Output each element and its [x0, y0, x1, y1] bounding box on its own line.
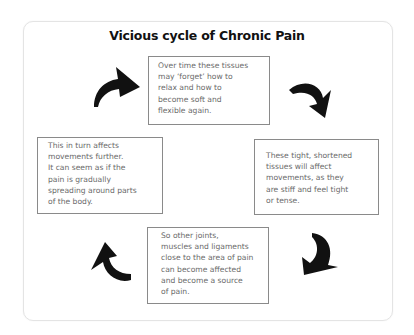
step-text-line: flexible again.: [158, 105, 263, 116]
step-text-line: of pain.: [161, 286, 262, 297]
step-text-line: It can seem as if the: [48, 162, 156, 173]
curved-arrow-up-right-icon: [92, 63, 142, 109]
step-text-line: tissues will affect: [266, 161, 372, 172]
step-text-line: muscles and ligaments: [161, 241, 262, 252]
step-text-line: movements further.: [48, 151, 156, 162]
step-text-line: So other joints,: [161, 230, 262, 241]
cycle-step-top: Over time these tissues may ‘forget’ how…: [148, 56, 270, 125]
step-text-line: close to the area of pain: [161, 252, 262, 263]
cycle-step-left: This in turn affects movements further. …: [37, 137, 163, 214]
step-text-line: become soft and: [158, 94, 263, 105]
step-text-line: Over time these tissues: [158, 60, 263, 71]
step-text-line: pain is gradually: [48, 174, 156, 185]
step-text-line: spreading around parts: [48, 185, 156, 196]
step-text-line: This in turn affects: [48, 140, 156, 151]
curved-arrow-up-left-icon: [89, 240, 133, 286]
step-text-line: or tense.: [266, 195, 372, 206]
curved-arrow-down-right-icon: [289, 76, 333, 120]
step-text-line: can become affected: [161, 264, 262, 275]
step-text-line: These tight, shortened: [266, 150, 372, 161]
step-text-line: relax and how to: [158, 82, 263, 93]
diagram-title: Vicious cycle of Chronic Pain: [0, 28, 414, 43]
cycle-step-bottom: So other joints, muscles and ligaments c…: [147, 227, 269, 304]
step-text-line: of the body.: [48, 196, 156, 207]
step-text-line: and become a source: [161, 275, 262, 286]
step-text-line: movements, as they: [266, 172, 372, 183]
cycle-step-right: These tight, shortened tissues will affe…: [254, 139, 379, 215]
curved-arrow-down-left-icon: [300, 233, 340, 277]
step-text-line: are stiff and feel tight: [266, 184, 372, 195]
step-text-line: may ‘forget’ how to: [158, 71, 263, 82]
